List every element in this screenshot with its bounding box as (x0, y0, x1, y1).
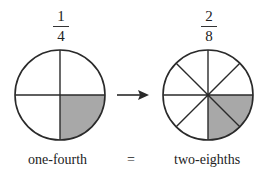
circle-quarters (15, 50, 105, 140)
label-two-eighths: two-eighths (174, 152, 240, 168)
arrow-right-icon (117, 90, 149, 100)
equals-sign: = (127, 152, 135, 168)
circle-eighths (163, 50, 253, 140)
fraction-diagram (0, 0, 265, 175)
label-one-fourth: one-fourth (28, 152, 87, 168)
